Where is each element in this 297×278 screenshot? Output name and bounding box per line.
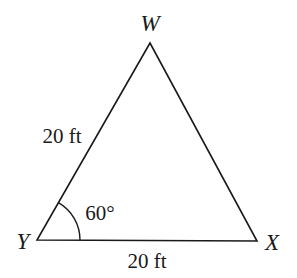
side-label-yw: 20 ft [42, 124, 81, 148]
triangle-diagram: W Y X 20 ft 20 ft 60° [0, 0, 297, 278]
vertex-label-w: W [140, 11, 161, 36]
vertex-label-x: X [264, 230, 280, 255]
side-label-yx: 20 ft [127, 249, 166, 273]
vertex-label-y: Y [17, 229, 32, 254]
angle-label-y: 60° [85, 201, 114, 225]
angle-arc-y [58, 203, 80, 240]
